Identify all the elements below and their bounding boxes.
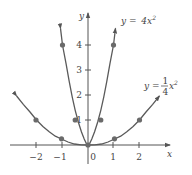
svg-text:1: 1: [163, 76, 169, 86]
svg-text:y = 4x2: y = 4x2: [120, 14, 156, 26]
label-4x-squared: y = 4x2: [120, 14, 156, 26]
label-quarter-x-squared: y = 1 4 x2: [143, 76, 178, 97]
x-tick-label: −1: [53, 152, 66, 162]
x-tick-label: −2: [29, 152, 42, 162]
svg-text:4: 4: [163, 87, 169, 97]
svg-text:y =: y =: [143, 81, 160, 91]
y-axis-label: y: [78, 11, 85, 21]
x-tick-label: 1: [110, 152, 116, 162]
x-axis-label: x: [167, 149, 172, 159]
x-tick-label: 0: [90, 152, 96, 162]
svg-text:x2: x2: [169, 79, 178, 91]
y-tick-label: 4: [76, 40, 82, 50]
parabola-graph: −2 −1 0 1 2 1 2 3 4 x y y = 4x2 y = 1 4 …: [0, 0, 192, 175]
x-tick-label: 2: [136, 152, 142, 162]
y-tick-label: 3: [76, 65, 82, 75]
y-tick-label: 2: [76, 90, 82, 100]
